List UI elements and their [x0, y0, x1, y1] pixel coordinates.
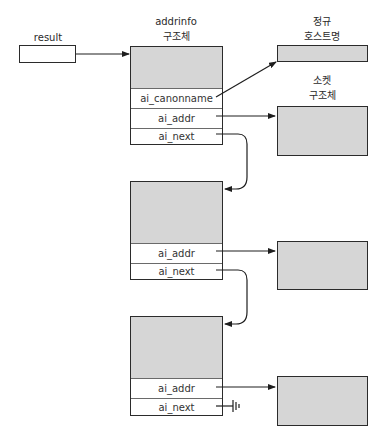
canonical-hostname-label-line2: 호스트명 [277, 30, 367, 43]
socket-struct-label: 소켓 구조체 [277, 74, 367, 102]
field-ai-addr: ai_addr [131, 108, 222, 128]
addrinfo-label-line1: addrinfo [130, 15, 222, 28]
result-label: result [22, 31, 74, 44]
socket-struct-label-line2: 구조체 [277, 89, 367, 102]
addrinfo-struct-1: ai_canonname ai_addr ai_next [130, 46, 223, 145]
struct-body [131, 47, 222, 89]
field-ai-canonname: ai_canonname [131, 89, 222, 108]
canonical-hostname-label-line1: 정규 [277, 15, 367, 28]
socket-struct-box-3 [277, 376, 368, 426]
socket-struct-box-1 [277, 106, 368, 156]
addrinfo-label: addrinfo 구조체 [130, 15, 222, 43]
canonical-hostname-box [277, 45, 368, 62]
struct-body [131, 317, 222, 379]
addrinfo-struct-3: ai_addr ai_next [130, 316, 223, 416]
field-ai-next: ai_next [131, 263, 222, 279]
canonical-hostname-label: 정규 호스트명 [277, 15, 367, 43]
result-pointer-box [19, 45, 76, 63]
socket-struct-label-line1: 소켓 [277, 74, 367, 87]
field-ai-addr: ai_addr [131, 379, 222, 398]
field-ai-next: ai_next [131, 398, 222, 415]
ground-null-icon [233, 400, 239, 412]
arrow-canonname-to-hostname [216, 62, 276, 97]
struct-body [131, 182, 222, 244]
socket-struct-box-2 [277, 241, 368, 290]
field-ai-addr: ai_addr [131, 244, 222, 263]
addrinfo-struct-2: ai_addr ai_next [130, 181, 223, 280]
field-ai-next: ai_next [131, 128, 222, 144]
addrinfo-label-line2: 구조체 [130, 30, 222, 43]
